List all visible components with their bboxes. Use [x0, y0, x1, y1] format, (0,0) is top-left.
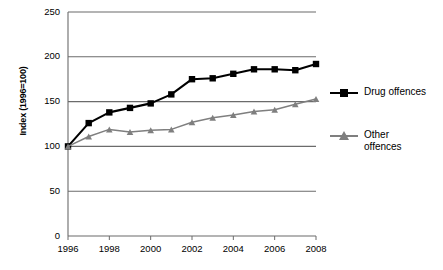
data-point-marker-square [86, 120, 92, 126]
chart-legend: Drug offences Other offences [330, 86, 442, 182]
data-point-marker-square [148, 100, 154, 106]
data-point-marker-square [189, 76, 195, 82]
x-tick-label: 1996 [48, 243, 88, 254]
y-tick-label: 100 [30, 140, 60, 151]
chart-figure: Index (1996=100) 050100150200250 1996199… [0, 0, 443, 270]
x-tick-label: 2008 [296, 243, 336, 254]
data-point-marker-square [272, 66, 278, 72]
data-point-marker-square [106, 109, 112, 115]
data-point-marker-square [127, 105, 133, 111]
y-tick-label: 0 [30, 230, 60, 241]
legend-marker-triangle-icon [330, 130, 358, 142]
x-tick-label: 2002 [172, 243, 212, 254]
legend-label-drug-offences: Drug offences [358, 86, 426, 98]
y-tick-label: 200 [30, 50, 60, 61]
x-tick-label: 1998 [89, 243, 129, 254]
data-point-marker-square [313, 61, 319, 67]
legend-label-other-offences: Other offences [358, 129, 402, 152]
data-point-marker-square [292, 67, 298, 73]
y-tick-label: 250 [30, 6, 60, 17]
y-tick-label: 50 [30, 185, 60, 196]
data-point-marker-square [251, 66, 257, 72]
data-point-marker-square [168, 91, 174, 97]
data-point-marker-square [210, 75, 216, 81]
legend-item-other-offences: Other offences [330, 129, 442, 152]
y-tick-label: 150 [30, 95, 60, 106]
cropped-caption-text [0, 258, 443, 270]
x-tick-label: 2000 [131, 243, 171, 254]
legend-marker-square-icon [330, 87, 358, 99]
data-point-marker-square [230, 71, 236, 77]
x-tick-label: 2006 [255, 243, 295, 254]
data-point-marker-triangle [85, 134, 92, 140]
x-tick-label: 2004 [213, 243, 253, 254]
legend-item-drug-offences: Drug offences [330, 86, 442, 99]
